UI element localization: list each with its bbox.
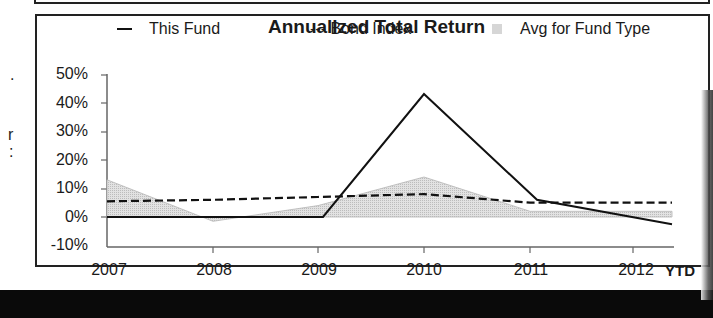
plot-area xyxy=(0,0,713,318)
bottom-dark-edge xyxy=(0,290,713,318)
axes xyxy=(101,74,674,253)
page-curl-shadow xyxy=(701,90,713,300)
